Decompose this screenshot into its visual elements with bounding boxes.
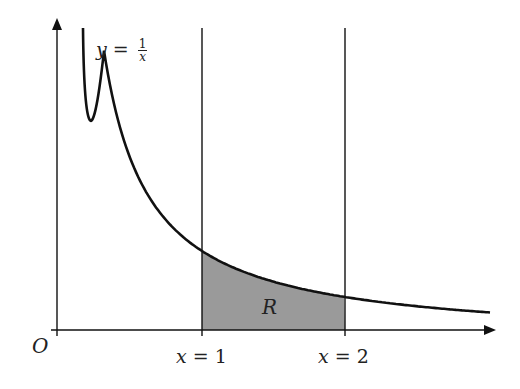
curve-label: y = 1 x <box>96 38 147 63</box>
plot-canvas <box>0 0 520 389</box>
curve-y-equals-1-over-x <box>83 28 490 313</box>
fraction: 1 x <box>138 38 148 63</box>
x-equals-2-label: x = 2 <box>318 347 369 366</box>
diagram: y = 1 x O x = 1 x = 2 R <box>0 0 520 389</box>
origin-label: O <box>32 336 48 356</box>
region-label: R <box>262 297 277 317</box>
y-axis-arrow-icon <box>52 18 62 30</box>
x-axis-arrow-icon <box>484 325 496 335</box>
x-equals-1-label: x = 1 <box>176 347 227 366</box>
